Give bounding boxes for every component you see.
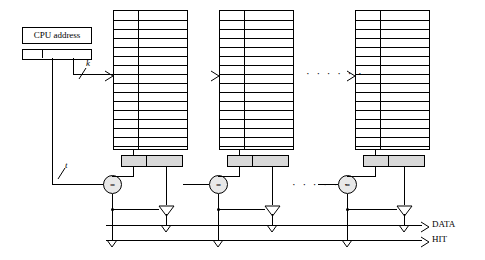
tag-bus-horizontal (52, 184, 104, 185)
junction-dot-way-1 (111, 208, 114, 211)
bar-tag-to-comparator-way-1 (133, 167, 134, 176)
data-join-arrow-way-n (399, 219, 409, 227)
enable-branch-way-n (347, 209, 397, 210)
comparator-label-way-1: = (110, 180, 115, 190)
tag-bus-to-comparator-2 (183, 184, 209, 185)
output-bar-way-1 (121, 155, 183, 167)
bar-tag-to-comparator-way-2 (239, 167, 240, 176)
data-join-arrow-way-2 (267, 219, 277, 227)
hit-join-arrow-way-2 (213, 234, 223, 242)
comparator-label-way-2: = (216, 180, 221, 190)
comparator-way-2: = (209, 175, 228, 194)
tag-data-array-way-n (355, 10, 430, 150)
junction-dot-way-2 (217, 208, 220, 211)
array-to-bar-way-1 (133, 150, 134, 155)
index-arrow-way-1 (104, 68, 114, 80)
address-field-box (22, 49, 92, 60)
enable-branch-way-1 (112, 209, 159, 210)
output-bar-way-2 (227, 155, 289, 167)
array-to-bar-way-n (375, 150, 376, 155)
array-to-bar-way-2 (239, 150, 240, 155)
data-bus-arrow (420, 219, 430, 231)
hit-output-label: HIT (432, 234, 447, 244)
cache-lookup-diagram: CPU address (0, 0, 485, 260)
bar-tag-to-comparator-way-n (375, 167, 376, 176)
tag-data-array-way-1 (113, 10, 188, 150)
address-field-divider (42, 49, 43, 58)
hit-bus-arrow (420, 234, 430, 246)
output-bar-way-n (363, 155, 425, 167)
index-bus-drop (73, 58, 74, 74)
bar-data-out-way-n (404, 167, 405, 205)
bar-data-out-way-2 (272, 167, 273, 205)
data-bus (106, 225, 422, 226)
tag-bus-to-comparator-n (318, 184, 338, 185)
tag-width-label: t (65, 160, 68, 170)
index-width-label: k (86, 58, 90, 68)
cpu-address-label: CPU address (34, 30, 81, 40)
junction-dot-way-n (346, 208, 349, 211)
index-arrow-way-n (346, 68, 356, 80)
enable-branch-way-2 (218, 209, 265, 210)
hit-bus (106, 240, 422, 241)
comparator-way-1: = (103, 175, 122, 194)
data-join-arrow-way-1 (161, 219, 171, 227)
bar-tag-to-comparator-way-n-h (347, 176, 376, 177)
index-arrow-way-2 (210, 68, 220, 80)
hit-join-arrow-way-n (342, 234, 352, 242)
cpu-address-box: CPU address (22, 27, 92, 44)
tag-data-array-way-2 (219, 10, 294, 150)
bar-tag-to-comparator-way-1-h (112, 176, 134, 177)
tag-bus-drop (52, 58, 53, 184)
data-output-label: DATA (432, 219, 455, 229)
bar-tag-to-comparator-way-2-h (218, 176, 240, 177)
bar-data-out-way-1 (166, 167, 167, 205)
hit-join-arrow-way-1 (107, 234, 117, 242)
